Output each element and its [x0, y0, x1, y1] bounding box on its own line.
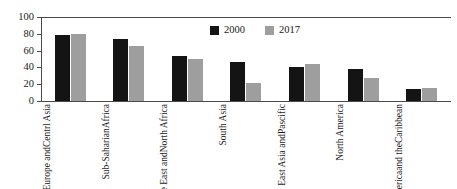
legend-entry: 2000 — [210, 25, 245, 35]
x-axis-label-line: and the — [392, 143, 404, 171]
x-axis-label-line: Sub-Saharian — [100, 128, 112, 179]
x-axis-label-line: Europe and — [41, 147, 53, 189]
chart-legend: 20002017 — [210, 25, 300, 35]
legend-label: 2017 — [279, 25, 300, 35]
x-axis-category-label: Sub-SaharianAfrica — [100, 104, 156, 189]
bar — [406, 89, 421, 101]
x-axis-baseline — [41, 101, 451, 102]
y-axis-tick-label: 40 — [24, 62, 35, 72]
y-axis-tick-label: 100 — [18, 12, 34, 22]
bar — [364, 78, 379, 101]
bar-group — [334, 17, 393, 101]
x-axis-category-label: South Asia — [217, 104, 273, 189]
x-axis-label-line: Pascific — [275, 104, 287, 134]
legend-swatch-icon — [265, 26, 274, 35]
legend-entry: 2017 — [265, 25, 300, 35]
bar — [246, 83, 261, 101]
y-axis-tick-label: 60 — [24, 46, 35, 56]
x-axis-category-label: North America — [334, 104, 390, 189]
bar — [422, 88, 437, 101]
x-axis-category-label: Middle East andNorth Africa — [158, 104, 214, 189]
x-axis-labels: Europe andCentrl AsiaSub-SaharianAfricaM… — [41, 104, 451, 189]
x-axis-label-line: Africa — [100, 104, 112, 128]
x-axis-label-line: Latin America — [392, 171, 404, 189]
x-axis-label-line: Caribbean — [392, 104, 404, 143]
y-axis-tick-label: 20 — [24, 79, 35, 89]
legend-swatch-icon — [210, 26, 219, 35]
y-axis-tick-label: 80 — [24, 29, 35, 39]
bar — [289, 67, 304, 101]
bar — [172, 56, 187, 101]
bar — [188, 59, 203, 101]
x-axis-label-line: Centrl Asia — [41, 104, 53, 147]
x-axis-label-line: North America — [334, 104, 346, 161]
x-axis-label-line: North Africa — [158, 104, 170, 152]
x-axis-label-line: South Asia — [217, 104, 229, 145]
bar — [129, 46, 144, 101]
legend-label: 2000 — [224, 25, 245, 35]
bar-group — [100, 17, 159, 101]
bar-group — [158, 17, 217, 101]
x-axis-label-line: East Asia and — [275, 134, 287, 186]
x-axis-category-label: Europe andCentrl Asia — [41, 104, 97, 189]
bar — [348, 69, 363, 101]
x-axis-label-line: Middle East and — [158, 152, 170, 189]
bar — [230, 62, 245, 101]
bar — [71, 34, 86, 101]
bar — [305, 64, 320, 101]
y-axis-tick-label: 0 — [29, 96, 34, 106]
y-axis: 100806040200 — [0, 0, 40, 110]
x-axis-category-label: Latin Americaand theCaribbean — [392, 104, 448, 189]
bar-group — [392, 17, 451, 101]
bar — [113, 39, 128, 101]
bar-group — [41, 17, 100, 101]
bar — [55, 35, 70, 101]
x-axis-category-label: East Asia andPascific — [275, 104, 331, 189]
bar-chart: 100806040200 20002017 Europe andCentrl A… — [0, 0, 457, 189]
